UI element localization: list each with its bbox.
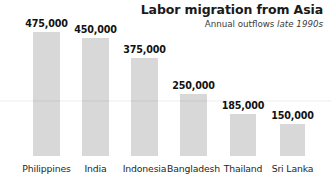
bar-value-label: 475,000: [25, 18, 67, 29]
plot-area: 475,000 Philippines 450,000 India 375,00…: [0, 0, 331, 180]
category-label-india: India: [84, 163, 106, 174]
category-label-thailand: Thailand: [224, 163, 263, 174]
bar-group-sri-lanka: 150,000 Sri Lanka: [280, 124, 305, 156]
bar-bangladesh[interactable]: [180, 94, 207, 156]
bar-value-label: 185,000: [222, 100, 264, 111]
bar-chart-labor-migration-from-asia: Labor migration from Asia Annual outflow…: [0, 0, 331, 180]
bar-group-india: 450,000 India: [82, 38, 109, 156]
bar-sri-lanka[interactable]: [280, 124, 305, 156]
bar-indonesia[interactable]: [131, 58, 158, 156]
bar-value-label: 375,000: [123, 44, 165, 55]
category-label-bangladesh: Bangladesh: [167, 163, 220, 174]
bar-value-label: 150,000: [271, 110, 313, 121]
bar-group-thailand: 185,000 Thailand: [230, 114, 256, 156]
bar-group-philippines: 475,000 Philippines: [33, 32, 60, 156]
bar-thailand[interactable]: [230, 114, 256, 156]
category-label-indonesia: Indonesia: [123, 163, 167, 174]
bar-india[interactable]: [82, 38, 109, 156]
bar-group-bangladesh: 250,000 Bangladesh: [180, 94, 207, 156]
category-label-philippines: Philippines: [22, 163, 70, 174]
category-label-sri-lanka: Sri Lanka: [272, 163, 314, 174]
bar-value-label: 250,000: [172, 80, 214, 91]
bar-group-indonesia: 375,000 Indonesia: [131, 58, 158, 156]
bar-value-label: 450,000: [74, 24, 116, 35]
bar-philippines[interactable]: [33, 32, 60, 156]
